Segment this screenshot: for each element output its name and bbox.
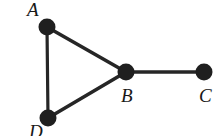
node-label-c: C [199, 86, 212, 105]
edge-d-b [48, 72, 126, 118]
node-label-d: D [29, 122, 43, 136]
node-label-a: A [27, 0, 39, 19]
node-a [39, 19, 56, 36]
node-label-b: B [121, 86, 133, 105]
edge-a-d [47, 27, 48, 118]
graph-figure: A B C D [0, 0, 223, 136]
node-c [196, 64, 213, 81]
edge-a-b [47, 27, 126, 72]
node-b [118, 64, 135, 81]
graph-canvas [0, 0, 223, 136]
